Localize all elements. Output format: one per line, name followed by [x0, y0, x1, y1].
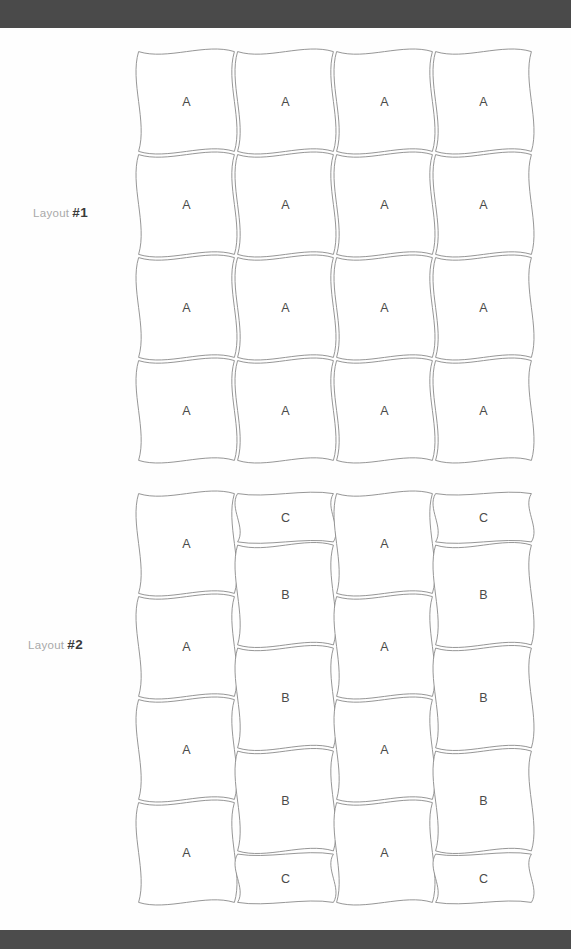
- tile-a[interactable]: A: [136, 491, 237, 596]
- tile-label: B: [479, 691, 487, 705]
- window-titlebar: [0, 0, 571, 28]
- tile-b[interactable]: B: [235, 749, 336, 854]
- layout-label-word: Layout: [28, 639, 64, 651]
- tile-label: A: [182, 846, 191, 860]
- tile-label: C: [479, 511, 488, 525]
- layout-label-number: #2: [67, 637, 83, 652]
- tile-label: B: [479, 794, 487, 808]
- diagram-canvas: AAAAAAAAAAAAAAAAAAAACBBBCAAAACBBBC Layou…: [0, 28, 571, 930]
- tile-c[interactable]: C: [433, 853, 534, 904]
- tile-label: C: [479, 872, 488, 886]
- tile-a[interactable]: A: [334, 800, 435, 905]
- layout-label-1: Layout#1: [33, 205, 88, 220]
- tile-label: A: [380, 743, 389, 757]
- tile-label: B: [281, 588, 289, 602]
- tile-c[interactable]: C: [235, 853, 336, 904]
- tile-label: A: [182, 537, 191, 551]
- tile-label: C: [281, 511, 290, 525]
- layout-label-number: #1: [72, 205, 88, 220]
- tile-label: B: [281, 691, 289, 705]
- layout-label-word: Layout: [33, 207, 69, 219]
- tile-label: A: [182, 640, 191, 654]
- tile-b[interactable]: B: [235, 646, 336, 751]
- tile-b[interactable]: B: [235, 543, 336, 648]
- tile-a[interactable]: A: [136, 800, 237, 905]
- tile-a[interactable]: A: [334, 491, 435, 596]
- tile-b[interactable]: B: [433, 646, 534, 751]
- tile-label: B: [479, 588, 487, 602]
- tile-b[interactable]: B: [433, 749, 534, 854]
- tile-a[interactable]: A: [334, 697, 435, 802]
- tile-a[interactable]: A: [334, 594, 435, 699]
- tile-label: C: [281, 872, 290, 886]
- tile-a[interactable]: A: [136, 594, 237, 699]
- tile-a[interactable]: A: [136, 697, 237, 802]
- layout-label-2: Layout#2: [28, 637, 83, 652]
- tile-label: A: [182, 743, 191, 757]
- tile-label: B: [281, 794, 289, 808]
- window-bottombar: [0, 930, 571, 949]
- tile-c[interactable]: C: [235, 492, 336, 543]
- tiling-layout-2: AAAACBBBCAAAACBBBC: [0, 28, 571, 930]
- tile-grid-layout-2: AAAACBBBCAAAACBBBC: [124, 479, 546, 917]
- tile-label: A: [380, 640, 389, 654]
- tile-c[interactable]: C: [433, 492, 534, 543]
- tile-label: A: [380, 537, 389, 551]
- tile-label: A: [380, 846, 389, 860]
- tile-b[interactable]: B: [433, 543, 534, 648]
